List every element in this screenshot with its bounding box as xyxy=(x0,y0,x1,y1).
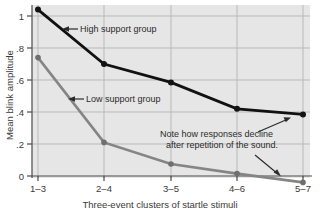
y-axis-title: Mean blink amplitude xyxy=(4,50,15,140)
y-tick-label-04: .4 xyxy=(16,107,24,118)
x-tick-label-3: 3–5 xyxy=(163,183,179,194)
y-tick-label-0: 0 xyxy=(19,171,24,182)
data-point-low-3 xyxy=(168,161,174,167)
data-point-high-4 xyxy=(234,106,240,112)
y-tick-label-02: .2 xyxy=(16,139,24,150)
x-tick-label-4: 4–6 xyxy=(229,183,245,194)
data-point-low-5 xyxy=(300,180,306,186)
data-point-high-5 xyxy=(300,111,306,117)
data-point-low-4 xyxy=(234,171,240,177)
low-support-annotation-label: Low support group xyxy=(86,94,161,104)
data-point-low-1 xyxy=(35,55,41,61)
x-tick-label-2: 2–4 xyxy=(96,183,112,194)
y-tick-label-06: .6 xyxy=(16,75,24,86)
decline-note-line-2: after repetition of the sound. xyxy=(166,140,278,150)
blink-amplitude-line-chart: 1 .8 .6 .4 .2 0 1–3 2–4 3–5 4–6 5–7 Thre… xyxy=(0,0,320,214)
y-tick-label-08: .8 xyxy=(16,43,24,54)
decline-note-line-1: Note how responses decline xyxy=(160,129,273,139)
y-tick-marks xyxy=(27,16,32,176)
y-tick-label-1: 1 xyxy=(19,11,24,22)
data-point-high-2 xyxy=(101,61,107,67)
x-axis-title: Three-event clusters of startle stimuli xyxy=(82,199,237,210)
data-point-low-2 xyxy=(101,140,107,146)
data-point-high-1 xyxy=(35,7,41,13)
x-tick-label-1: 1–3 xyxy=(30,183,46,194)
chart-figure: 1 .8 .6 .4 .2 0 1–3 2–4 3–5 4–6 5–7 Thre… xyxy=(0,0,320,214)
data-point-high-3 xyxy=(168,79,174,85)
high-support-annotation-label: High support group xyxy=(80,24,157,34)
